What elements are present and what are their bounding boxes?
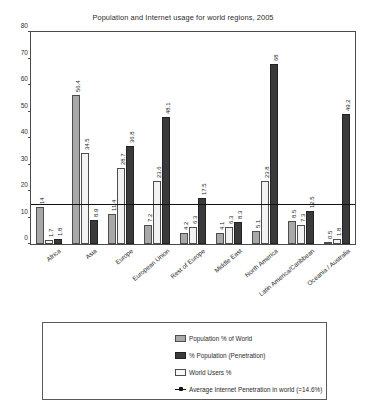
bar-group: 5.123.868 <box>247 32 283 244</box>
legend-line-marker-icon <box>175 386 186 394</box>
bar-value-label: 1.8 <box>336 228 342 236</box>
plot-area: 01020304050607080 141.71.856.434.58.911.… <box>30 31 356 245</box>
legend-swatch-icon-penetration <box>175 352 186 359</box>
bar-group: 0.51.849.2 <box>319 32 355 244</box>
bar-group: 8.57.312.5 <box>283 32 319 244</box>
x-axis-label: Rest of Europe <box>169 247 206 280</box>
y-axis-tick: 10 <box>8 207 28 214</box>
bar-value-label: 7.3 <box>300 213 306 221</box>
legend-label: Average Internet Penetration in world (=… <box>189 386 322 393</box>
chart-page: Population and Internet usage for world … <box>0 0 366 409</box>
bar: 6.3 <box>225 227 233 244</box>
bar: 23.8 <box>261 181 269 244</box>
bar: 1.7 <box>45 240 53 245</box>
legend-item-penetration: % Population (Penetration) <box>43 347 326 364</box>
chart-legend: Population % of World % Population (Pene… <box>42 322 327 400</box>
bar-value-label: 7.2 <box>147 214 153 222</box>
bar: 7.2 <box>144 225 152 244</box>
bar-value-label: 8.9 <box>93 209 99 217</box>
x-axis-label: Middle East <box>213 247 243 274</box>
bar: 23.6 <box>153 181 161 244</box>
bar: 4.2 <box>180 233 188 244</box>
page-title: Population and Internet usage for world … <box>0 13 366 22</box>
y-axis-tick: 0 <box>8 234 28 241</box>
bar: 8.3 <box>234 222 242 244</box>
bar-value-label: 1.8 <box>57 228 63 236</box>
y-axis-tick: 80 <box>8 22 28 29</box>
bar-value-label: 28.7 <box>120 153 126 165</box>
bar: 28.7 <box>117 168 125 244</box>
bar-value-label: 12.5 <box>309 196 315 208</box>
bar-group: 56.434.58.9 <box>67 32 103 244</box>
bar-value-label: 6.3 <box>192 216 198 224</box>
legend-label: Population % of World <box>189 335 252 342</box>
bar-value-label: 0.5 <box>327 231 333 239</box>
legend-item-population-pct: Population % of World <box>43 330 326 347</box>
y-axis-tick: 60 <box>8 75 28 82</box>
bar-value-label: 68 <box>273 54 279 61</box>
bar: 11.4 <box>108 214 116 244</box>
bar-group: 4.26.317.5 <box>175 32 211 244</box>
bar: 48.1 <box>162 117 170 244</box>
x-axis-label: Asia <box>84 247 98 260</box>
bar: 7.3 <box>297 225 305 244</box>
bar-value-label: 8.5 <box>291 210 297 218</box>
legend-label: World Users % <box>189 369 232 376</box>
legend-item-world-users: World Users % <box>43 364 326 381</box>
x-axis-label: Europe <box>114 247 134 266</box>
bar: 1.8 <box>54 239 62 244</box>
x-axis-label: North America <box>243 247 279 278</box>
bar: 12.5 <box>306 211 314 244</box>
legend-swatch-icon-world-users <box>175 369 186 376</box>
bar-value-label: 17.5 <box>201 183 207 195</box>
bar: 56.4 <box>72 95 80 244</box>
plot-inner: 01020304050607080 141.71.856.434.58.911.… <box>31 32 355 244</box>
bar-value-label: 56.4 <box>75 80 81 92</box>
bar-value-label: 14 <box>39 197 45 204</box>
bar: 8.9 <box>90 220 98 244</box>
bar: 1.8 <box>333 239 341 244</box>
bar-value-label: 23.8 <box>264 166 270 178</box>
bar-value-label: 5.1 <box>255 219 261 227</box>
legend-label: % Population (Penetration) <box>189 352 265 359</box>
y-axis-tick: 70 <box>8 48 28 55</box>
x-axis-labels: AfricaAsiaEuropeEuropean UnionRest of Eu… <box>30 247 356 313</box>
bar: 8.5 <box>288 221 296 244</box>
bar-value-label: 34.5 <box>84 138 90 150</box>
bar-value-label: 6.3 <box>228 216 234 224</box>
bar-value-label: 8.3 <box>237 211 243 219</box>
x-axis-label: European Union <box>130 247 170 282</box>
bar: 4.1 <box>216 233 224 244</box>
x-axis-label: Africa <box>45 247 62 263</box>
bar: 0.5 <box>324 242 332 244</box>
bar: 34.5 <box>81 153 89 244</box>
bar: 14 <box>36 207 44 244</box>
bar-group: 141.71.8 <box>31 32 67 244</box>
bar: 36.8 <box>126 146 134 244</box>
y-axis-tick: 40 <box>8 128 28 135</box>
bar-value-label: 23.6 <box>156 167 162 179</box>
y-axis-tick: 20 <box>8 181 28 188</box>
bar: 49.2 <box>342 114 350 244</box>
average-penetration-line <box>31 204 355 205</box>
bar: 68 <box>270 64 278 244</box>
bar-value-label: 4.1 <box>219 222 225 230</box>
bar: 6.3 <box>189 227 197 244</box>
bar-value-label: 48.1 <box>165 102 171 114</box>
bar-value-label: 4.2 <box>183 222 189 230</box>
bar: 5.1 <box>252 231 260 245</box>
legend-item-average-line: Average Internet Penetration in world (=… <box>43 381 326 398</box>
bar-value-label: 49.2 <box>345 99 351 111</box>
y-axis-tick: 50 <box>8 101 28 108</box>
bar-groups: 141.71.856.434.58.911.428.736.87.223.648… <box>31 32 355 244</box>
y-axis-tick: 30 <box>8 154 28 161</box>
bar-value-label: 1.7 <box>48 228 54 236</box>
bar-group: 4.16.38.3 <box>211 32 247 244</box>
bar-group: 11.428.736.8 <box>103 32 139 244</box>
bar-group: 7.223.648.1 <box>139 32 175 244</box>
bar-value-label: 36.8 <box>129 132 135 144</box>
legend-swatch-icon-population <box>175 335 186 342</box>
